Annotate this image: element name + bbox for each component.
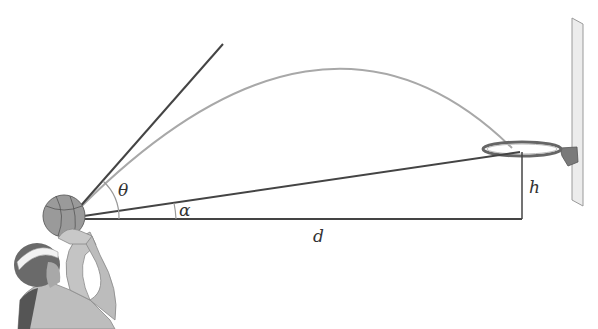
line-of-sight: [70, 152, 520, 218]
diagram-svg: [0, 0, 598, 329]
backboard: [572, 18, 583, 206]
player-figure: [14, 232, 116, 329]
rim-bracket: [560, 147, 578, 166]
alpha-arc: [174, 203, 176, 219]
diagram-canvas: θ α d h: [0, 0, 598, 329]
h-label: h: [529, 177, 540, 197]
launch-ray: [70, 44, 223, 218]
alpha-label: α: [179, 200, 190, 220]
d-label: d: [313, 226, 324, 246]
theta-label: θ: [118, 180, 128, 200]
